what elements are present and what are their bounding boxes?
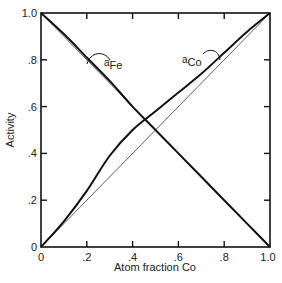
x-tick-label: 0 — [38, 251, 44, 263]
x-axis-label: Atom fraction Co — [114, 261, 196, 273]
y-tick-label: .6 — [28, 101, 37, 113]
afe-label: aFe — [104, 57, 122, 71]
y-tick-label: .4 — [28, 147, 37, 159]
y-axis-label: Activity — [4, 112, 16, 147]
activity-chart: 0.2.4.6.81.0 0.2.4.6.81.0 aFe aCo Atom f… — [0, 0, 282, 283]
y-tick-label: .2 — [28, 194, 37, 206]
y-tick-label: 0 — [31, 241, 37, 253]
x-tick-label: .2 — [82, 251, 91, 263]
y-tick-label: .8 — [28, 54, 37, 66]
y-tick-label: 1.0 — [22, 7, 37, 19]
x-tick-label: 1.0 — [260, 251, 275, 263]
y-tick-labels: 0.2.4.6.81.0 — [22, 7, 37, 253]
x-tick-label: .8 — [220, 251, 229, 263]
aco-label: aCo — [182, 54, 202, 68]
